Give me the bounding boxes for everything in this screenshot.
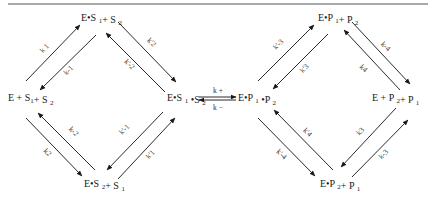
reaction-arrow (38, 113, 95, 170)
rate-constant-label: k-1 (62, 63, 76, 77)
rate-constant-label: k-4 (379, 40, 393, 54)
species-node-e-p2-p1-free: E + P 2+ P 1 (372, 92, 420, 107)
rate-constant-label: k3 (354, 125, 366, 137)
species-node-e-s1-s2-free: E + S1+ S 2 (8, 92, 54, 107)
species-node-ep1-p2: E•P 1+ P 2 (318, 12, 359, 27)
species-node-es1s2: E•S 1 •S 2 (167, 92, 206, 107)
rate-constant-label: k-2 (67, 125, 81, 139)
reaction-arrow (341, 108, 396, 167)
rate-constant-label: k'3 (298, 62, 311, 75)
rate-constant-label: k'-3 (271, 37, 286, 52)
rate-constant-label: k'-2 (123, 57, 138, 72)
k-minus-label: k − (213, 103, 223, 112)
species-node-es2-s1: E•S 2+ S 1 (84, 178, 125, 193)
reaction-arrow (344, 30, 400, 90)
reaction-arrow (40, 35, 96, 90)
rate-constant-label: k'2 (145, 36, 158, 49)
k-plus-label: k + (213, 86, 223, 95)
rate-constant-labels: k 1k-1k'2k'-2k2k-2k'-1k'1k'-3k'3k-4k4k'-… (38, 36, 393, 162)
rate-constant-label: k2 (42, 146, 54, 158)
rate-constant-label: k'-1 (117, 122, 132, 137)
species-node-ep1p2: E•P 1 •P 2 (238, 92, 277, 107)
rate-constant-label: k'4 (301, 126, 314, 139)
species-node-es1-s2: E•S 1+ S 2 (81, 12, 122, 27)
kinetic-scheme-diagram: k 1k-1k'2k'-2k2k-2k'-1k'1k'-3k'3k-4k4k'-… (0, 0, 432, 197)
rate-constant-label: k'-4 (275, 147, 290, 162)
rate-constant-label: k4 (358, 62, 370, 74)
species-node-ep2-p1: E•P 2+ P 1 (320, 178, 361, 193)
reaction-arrow (352, 22, 410, 84)
rate-constant-label: k 1 (38, 42, 51, 55)
reaction-arrow (118, 22, 176, 82)
